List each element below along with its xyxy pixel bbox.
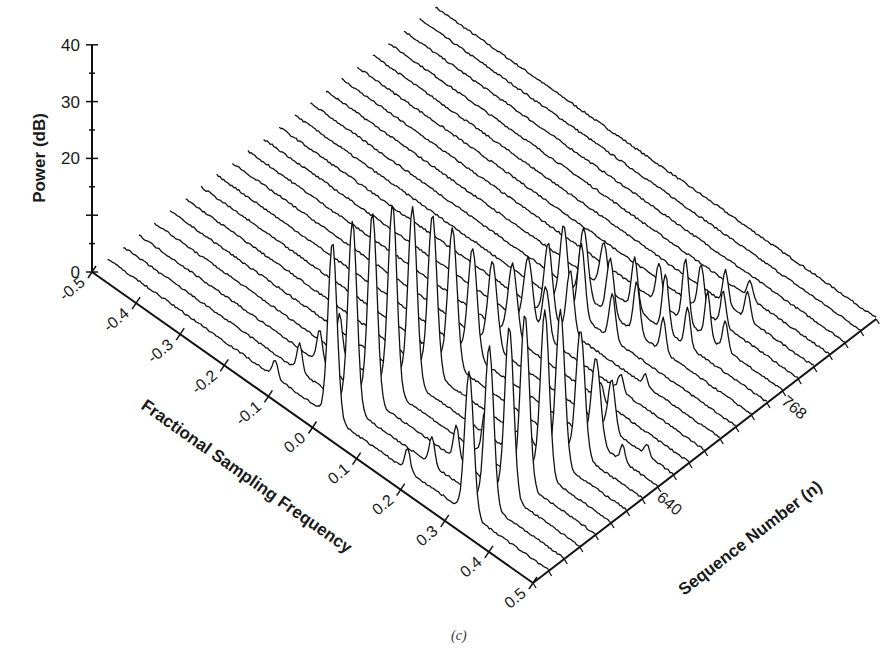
power-tick-label: 30: [61, 93, 80, 112]
frequency-tick-label: -0.5: [56, 273, 88, 304]
power-tick-label: 20: [61, 149, 80, 168]
sequence-axis-title: Sequence Number (n): [675, 477, 826, 599]
figure-caption: (c): [451, 628, 467, 644]
waterfall-chart: 0203040Power (dB)-0.5-0.4-0.3-0.2-0.10.0…: [0, 0, 888, 656]
power-tick-label: 40: [61, 36, 80, 55]
power-axis-title: Power (dB): [30, 113, 49, 203]
